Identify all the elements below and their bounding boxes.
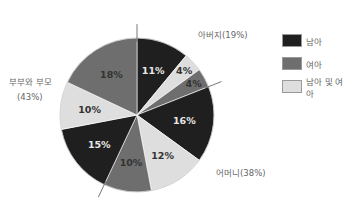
legend: 남아 여아 남아 및 여아: [282, 29, 351, 98]
legend-label: 여아: [306, 58, 322, 70]
slice-label: 10%: [120, 157, 143, 168]
slice-label: 4%: [186, 78, 203, 89]
slice-label: 18%: [100, 69, 123, 80]
legend-item-boy: 남아: [282, 29, 351, 52]
legend-swatch-both: [282, 80, 302, 93]
legend-swatch-boy: [282, 34, 302, 47]
group-label-father: 아버지(19%): [198, 28, 248, 40]
legend-item-girl: 여아: [282, 52, 351, 75]
slice-label: 10%: [78, 104, 101, 115]
group-label-couple-parents-pct: (43%): [17, 92, 43, 102]
group-label-mother: 어머니(38%): [216, 166, 266, 178]
slice-label: 4%: [176, 65, 193, 76]
slice-label: 12%: [151, 150, 174, 161]
group-label-couple-parents: 부부와 부모: [9, 75, 52, 87]
slice-label: 16%: [173, 115, 196, 126]
legend-swatch-girl: [282, 57, 302, 70]
legend-item-both: 남아 및 여아: [282, 75, 351, 98]
legend-label: 남아 및 여아: [306, 75, 351, 99]
slice-label: 15%: [88, 139, 111, 150]
legend-label: 남아: [306, 35, 322, 47]
slice-label: 11%: [142, 65, 165, 76]
